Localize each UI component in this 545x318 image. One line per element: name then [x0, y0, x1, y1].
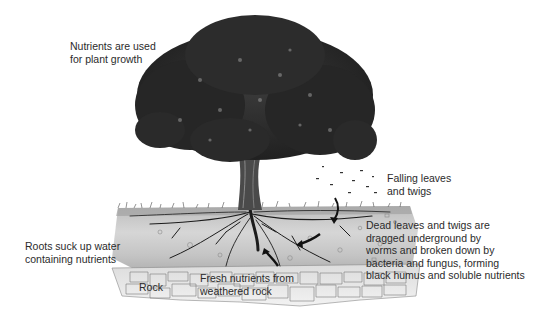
- label-nutrients-used: Nutrients are used for plant growth: [70, 40, 156, 65]
- label-roots-suck: Roots suck up water containing nutrients: [25, 240, 120, 265]
- nutrient-cycle-diagram: Nutrients are used for plant growth Fall…: [0, 0, 545, 318]
- label-dead-leaves: Dead leaves and twigs are dragged underg…: [366, 219, 525, 282]
- tree-crown: [135, 15, 377, 162]
- label-fresh-nutrients: Fresh nutrients from weathered rock: [200, 272, 294, 297]
- label-falling-leaves: Falling leaves and twigs: [387, 172, 451, 197]
- label-rock: Rock: [139, 281, 163, 294]
- falling-leaves: [316, 166, 377, 193]
